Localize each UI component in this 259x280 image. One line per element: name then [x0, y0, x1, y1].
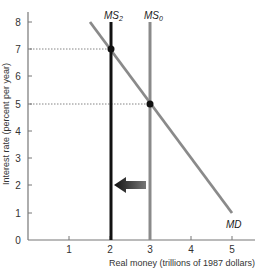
svg-text:7: 7	[15, 44, 21, 55]
shift-arrow-icon	[114, 177, 146, 193]
svg-text:0: 0	[15, 235, 21, 246]
md-label: MD	[226, 219, 242, 230]
svg-text:2: 2	[15, 180, 21, 191]
svg-text:2: 2	[107, 244, 113, 255]
svg-text:4: 4	[15, 126, 21, 137]
y-ticks: 8 7 6 5 4 3 2 1 0	[15, 17, 32, 246]
svg-text:4: 4	[188, 244, 194, 255]
svg-text:3: 3	[147, 244, 153, 255]
svg-text:1: 1	[66, 244, 72, 255]
x-axis-label: Real money (trillions of 1987 dollars)	[109, 258, 255, 268]
equilibrium-point-ms0	[147, 101, 154, 108]
equilibrium-point-ms2	[108, 46, 115, 53]
svg-text:3: 3	[15, 153, 21, 164]
svg-text:5: 5	[229, 244, 235, 255]
svg-text:6: 6	[15, 71, 21, 82]
ms0-label: MS0	[144, 10, 163, 22]
y-axis-label: Interest rate (percent per year)	[1, 63, 11, 185]
svg-text:8: 8	[15, 17, 21, 28]
ms2-label: MS2	[104, 10, 123, 22]
money-market-chart: 8 7 6 5 4 3 2 1 0 1 2 3 4 5 Real money (…	[0, 0, 259, 280]
svg-text:5: 5	[15, 99, 21, 110]
svg-text:1: 1	[15, 208, 21, 219]
